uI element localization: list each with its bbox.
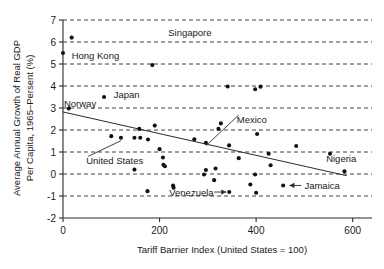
data-point (342, 169, 346, 173)
data-point (226, 84, 230, 88)
data-point (138, 136, 142, 140)
data-point (163, 164, 167, 168)
y-axis-title-line2: Per Capita, 1965–Persent (%) (24, 55, 35, 182)
y-tick-label: -2 (47, 213, 56, 224)
chart-background (0, 0, 384, 269)
data-point (158, 147, 162, 151)
data-point (61, 51, 65, 55)
data-point (153, 124, 157, 128)
data-point (248, 183, 252, 187)
point-label: Mexico (237, 114, 267, 125)
data-point (253, 172, 257, 176)
y-tick-label: 6 (50, 37, 56, 48)
data-point (109, 134, 113, 138)
data-point (204, 168, 208, 172)
y-tick-label: 5 (50, 59, 56, 70)
x-tick-label: 0 (60, 225, 66, 236)
data-point (258, 85, 262, 89)
data-point (294, 144, 298, 148)
scatter-chart: -2-101234567 0200400600 SingaporeHong Ko… (0, 0, 384, 269)
point-label: Hong Kong (72, 50, 120, 61)
point-label: Norway (64, 98, 96, 109)
data-point (137, 127, 141, 131)
data-point (255, 132, 259, 136)
data-point (254, 191, 258, 195)
data-point (227, 190, 231, 194)
point-label: Nigeria (326, 153, 357, 164)
data-point (214, 166, 218, 170)
x-tick-label: 600 (344, 225, 361, 236)
y-tick-label: -1 (47, 191, 56, 202)
data-point (132, 136, 136, 140)
chart-canvas: -2-101234567 0200400600 SingaporeHong Ko… (0, 0, 384, 269)
y-axis-title-line1: Average Annual Growth of Real GDP (11, 40, 22, 196)
data-point (212, 178, 216, 182)
data-point (132, 168, 136, 172)
data-point (145, 189, 149, 193)
data-point (219, 121, 223, 125)
data-point (70, 36, 74, 40)
data-point (216, 127, 220, 131)
x-tick-label: 200 (151, 225, 168, 236)
y-tick-label: 7 (50, 15, 56, 26)
point-label: United States (86, 155, 143, 166)
y-tick-label: 1 (50, 147, 56, 158)
data-point (253, 87, 257, 91)
data-point (269, 163, 273, 167)
x-axis-title: Tariff Barrier Index (United States = 10… (137, 244, 307, 255)
data-point (237, 156, 241, 160)
data-point (102, 95, 106, 99)
data-point (150, 63, 154, 67)
data-point (146, 137, 150, 141)
data-point (281, 183, 285, 187)
point-label: Jamaica (304, 180, 340, 191)
point-label: Singapore (168, 27, 211, 38)
data-point (267, 152, 271, 156)
data-point (202, 172, 206, 176)
point-label: Japan (114, 89, 140, 100)
point-label: Venezuela (169, 187, 214, 198)
y-tick-label: 3 (50, 103, 56, 114)
data-point (119, 136, 123, 140)
y-tick-label: 0 (50, 169, 56, 180)
x-tick-label: 400 (248, 225, 265, 236)
data-point (192, 137, 196, 141)
data-point (227, 143, 231, 147)
y-tick-label: 2 (50, 125, 56, 136)
y-tick-label: 4 (50, 81, 56, 92)
data-point (161, 155, 165, 159)
